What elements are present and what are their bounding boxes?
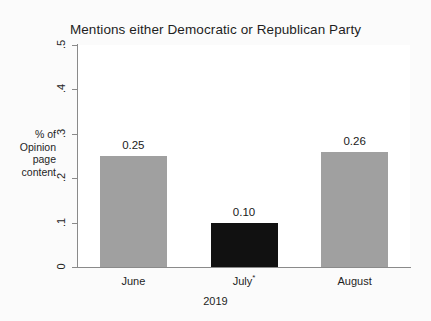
y-tick-label: .1 (56, 213, 67, 231)
x-tick-label: August (310, 275, 400, 287)
y-tick-label: 0 (56, 258, 67, 276)
y-axis-title-line-1: % of (2, 128, 56, 141)
y-axis-title: % of Opinion page content (2, 128, 56, 178)
y-tick-label: .4 (56, 80, 67, 98)
bar-august[interactable] (321, 152, 388, 267)
y-tick-mark (72, 178, 78, 179)
y-tick-label: .3 (56, 124, 67, 142)
bar-july[interactable] (211, 223, 278, 267)
y-tick-mark (72, 134, 78, 135)
bar-value-label: 0.26 (325, 135, 385, 147)
bar-chart: Mentions either Democratic or Republican… (0, 0, 431, 321)
bar-value-label: 0.10 (214, 206, 274, 218)
y-axis-title-line-3: page (2, 153, 56, 166)
y-axis-title-line-2: Opinion (2, 141, 56, 154)
x-tick-label: June (88, 275, 178, 287)
x-axis-line (77, 267, 411, 268)
x-tick-label: July* (199, 275, 289, 287)
y-tick-label: .5 (56, 36, 67, 54)
y-tick-mark (72, 267, 78, 268)
y-axis-title-line-4: content (2, 166, 56, 179)
bar-value-label: 0.25 (103, 139, 163, 151)
y-tick-mark (72, 223, 78, 224)
y-tick-mark (72, 45, 78, 46)
bar-june[interactable] (100, 156, 167, 267)
x-axis-title: 2019 (0, 295, 431, 307)
y-tick-mark (72, 89, 78, 90)
y-tick-label: .2 (56, 169, 67, 187)
